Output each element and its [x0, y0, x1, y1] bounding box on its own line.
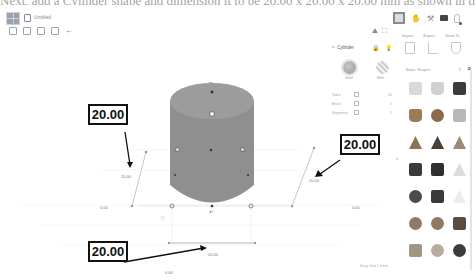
height-callout: 20.00: [88, 104, 128, 125]
undo-icon[interactable]: ←: [65, 27, 74, 35]
doc-title[interactable]: Untitled: [34, 14, 51, 20]
shape-box-dark[interactable]: [453, 82, 466, 95]
library-selector[interactable]: Basic Shapes ↕ ⌕: [398, 64, 476, 74]
shape-sphere[interactable]: [431, 109, 444, 122]
shape-roof[interactable]: [409, 136, 422, 149]
export-button[interactable]: Export: [423, 33, 435, 38]
briefcase-icon[interactable]: [440, 15, 448, 21]
send-to-button[interactable]: Send To: [445, 33, 460, 38]
height-dim-right[interactable]: 20.00: [309, 178, 319, 183]
shape-tube[interactable]: [431, 217, 444, 230]
app-logo[interactable]: [6, 12, 20, 25]
shape-box[interactable]: [409, 82, 422, 95]
shape-cone[interactable]: [431, 136, 444, 149]
hand-icon[interactable]: ✋: [411, 14, 421, 23]
edit-toolbar: ←: [9, 27, 74, 35]
width-callout: 20.00: [340, 134, 380, 155]
shape-heart[interactable]: [453, 217, 466, 230]
snap-grid-status[interactable]: Snap Grid 1.0 mm: [360, 264, 388, 268]
copy-icon[interactable]: [9, 27, 17, 35]
shape-polygon[interactable]: [431, 190, 444, 203]
delete-icon[interactable]: [51, 27, 59, 35]
elevation-dim-right[interactable]: 0.00: [352, 205, 360, 210]
ruler-icon[interactable]: [428, 42, 438, 54]
caption-fragment: Next, add a Cylinder shape and dimension…: [0, 0, 476, 5]
duplicate-icon[interactable]: [37, 27, 45, 35]
grid-icon[interactable]: ⛶: [382, 27, 387, 35]
shape-wedge[interactable]: [431, 163, 444, 176]
notes-icon[interactable]: [451, 42, 461, 54]
shape-cylinder[interactable]: [431, 82, 444, 95]
dropdown-icon[interactable]: ↕: [459, 66, 462, 72]
length-dim-bottom[interactable]: 20.00: [208, 252, 218, 257]
view-toolbar: ✋ ⚒: [393, 12, 460, 24]
scene: ⌒ ↶ ⟲: [0, 36, 398, 280]
svg-text:⌒: ⌒: [208, 81, 213, 87]
height-dim-left[interactable]: 20.00: [121, 174, 131, 179]
tool-tabs: ⛰ ⛶: [372, 27, 387, 35]
shape-text[interactable]: [409, 163, 422, 176]
paste-icon[interactable]: [23, 27, 31, 35]
3d-view-icon[interactable]: [393, 12, 405, 24]
svg-text:↶: ↶: [209, 209, 213, 215]
library-label: Basic Shapes: [406, 67, 430, 72]
shape-pyramid[interactable]: [453, 163, 466, 176]
user-icon[interactable]: [454, 14, 460, 23]
shapes-sidebar: Basic Shapes ↕ ⌕: [398, 42, 476, 257]
height-guide-left: [132, 152, 146, 206]
svg-text:⟲: ⟲: [160, 215, 165, 221]
3d-workplane-canvas[interactable]: ⌒ ↶ ⟲: [0, 36, 398, 280]
height-guide-right: [292, 148, 314, 206]
light-icon[interactable]: ⛰: [372, 27, 378, 35]
pickaxe-icon[interactable]: ⚒: [427, 14, 434, 23]
elevation-dim-left[interactable]: 0.00: [100, 205, 108, 210]
shape-icosahedron[interactable]: [431, 244, 444, 257]
category-icons: [398, 42, 476, 54]
sidebar-scrollbar[interactable]: [470, 70, 472, 270]
workplane-icon[interactable]: [405, 42, 415, 54]
shape-cylinder-brown[interactable]: [409, 109, 422, 122]
shape-scribble[interactable]: [453, 109, 466, 122]
shape-paraboloid[interactable]: [453, 190, 466, 203]
shape-half-sphere[interactable]: [409, 190, 422, 203]
shape-torus[interactable]: [409, 217, 422, 230]
tool-tab-labels: Import Export Send To: [402, 33, 460, 38]
length-callout: 20.00: [88, 241, 128, 262]
offset-dim-bottom[interactable]: 0.00: [165, 270, 173, 275]
shape-grid: [398, 82, 476, 257]
shape-star[interactable]: [409, 244, 422, 257]
shape-soccer-ball[interactable]: [453, 244, 466, 257]
shape-round-roof[interactable]: [453, 136, 466, 149]
import-button[interactable]: Import: [402, 33, 413, 38]
document-icon: [24, 14, 31, 22]
